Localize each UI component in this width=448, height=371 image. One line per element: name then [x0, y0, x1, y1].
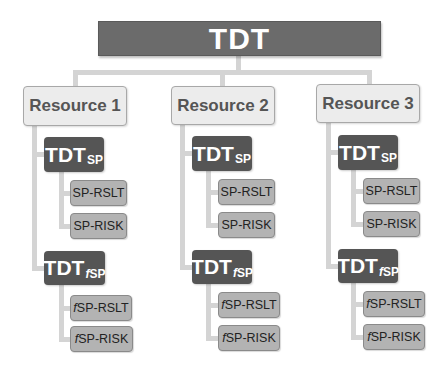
- resource-2-sp-rslt-node: SP-RSLT: [218, 179, 275, 205]
- resource-2-fsp-risk-node: fSP-RISK: [218, 325, 280, 351]
- leaf-label: SP-RSLT: [370, 297, 422, 311]
- tdt-subscript: SP: [87, 153, 103, 167]
- connector-res2-group1-branch: [180, 151, 192, 156]
- resource-1-tdt-fsp-node: TDTfSP: [44, 251, 105, 285]
- leaf-label: SP-RSLT: [77, 301, 129, 315]
- resource-3-tdt-sp-node: TDTSP: [338, 135, 398, 170]
- tdt-subscript-label: SP: [383, 265, 399, 279]
- tdt-subscript: SP: [235, 152, 251, 166]
- connector-res2-group1-leaf2: [206, 223, 218, 228]
- connector-res3-trunk: [326, 123, 331, 266]
- connector-res3-group2-leaf1: [351, 302, 363, 307]
- leaf-label: SP-RSLT: [221, 185, 273, 199]
- leaf-label: SP-RISK: [371, 330, 421, 344]
- connector-res3-group2-stem: [351, 283, 356, 337]
- leaf-label: SP-RISK: [78, 332, 128, 346]
- resource-2-sp-risk-node: SP-RISK: [218, 212, 275, 238]
- connector-res1-group1-leaf2: [59, 224, 70, 229]
- tdt-subscript-label: SP: [235, 152, 251, 166]
- resource-1-fsp-risk-node: fSP-RISK: [70, 326, 133, 352]
- resource-3-fsp-risk-node: fSP-RISK: [363, 324, 425, 350]
- tdt-subscript: fSP: [233, 266, 253, 280]
- tdt-subscript: SP: [381, 151, 397, 165]
- leaf-label: SP-RSLT: [225, 298, 277, 312]
- root-node: TDT: [98, 21, 381, 56]
- tdt-main-label: TDT: [44, 256, 85, 280]
- leaf-label: SP-RISK: [221, 218, 271, 232]
- connector-res1-group1-leaf1: [59, 191, 70, 196]
- connector-res2-group1-stem: [206, 171, 211, 225]
- resource-1-label: Resource 1: [29, 96, 121, 116]
- tdt-subscript-label: SP: [237, 266, 253, 280]
- connector-res2-stem: [220, 70, 225, 87]
- root-label: TDT: [209, 22, 270, 56]
- leaf-label: SP-RISK: [73, 219, 123, 233]
- leaf-label: SP-RSLT: [73, 186, 125, 200]
- resource-1-sp-risk-node: SP-RISK: [70, 213, 127, 239]
- connector-res2-trunk: [180, 125, 185, 267]
- connector-res2-group2-leaf1: [206, 303, 218, 308]
- resource-3-node: Resource 3: [316, 84, 420, 123]
- connector-res2-group1-leaf1: [206, 190, 218, 195]
- tdt-main-label: TDT: [193, 142, 234, 166]
- tdt-subscript-label: SP: [89, 267, 105, 281]
- resource-3-sp-risk-node: SP-RISK: [363, 211, 420, 237]
- connector-res2-group2-stem: [206, 284, 211, 338]
- connector-res1-group1-branch: [32, 152, 44, 157]
- connector-res2-group2-leaf2: [206, 336, 218, 341]
- resource-2-tdt-sp-node: TDTSP: [192, 136, 252, 171]
- resource-1-fsp-rslt-node: fSP-RSLT: [70, 295, 132, 321]
- connector-res1-stem: [73, 70, 78, 87]
- connector-res1-group2-branch: [32, 266, 44, 271]
- resource-1-sp-rslt-node: SP-RSLT: [70, 180, 127, 206]
- tdt-subscript-label: SP: [87, 153, 103, 167]
- resource-3-label: Resource 3: [322, 94, 414, 114]
- resource-3-fsp-rslt-node: fSP-RSLT: [363, 291, 425, 317]
- connector-res1-group2-leaf1: [59, 306, 70, 311]
- resource-1-node: Resource 1: [23, 86, 127, 126]
- connector-res3-group1-leaf2: [351, 222, 363, 227]
- connector-res1-trunk: [32, 126, 37, 268]
- connector-res1-group2-leaf2: [59, 337, 70, 342]
- connector-res3-group1-leaf1: [351, 189, 363, 194]
- leaf-label: SP-RSLT: [366, 184, 418, 198]
- resource-3-tdt-fsp-node: TDTfSP: [338, 249, 398, 283]
- tdt-main-label: TDT: [45, 143, 86, 167]
- tdt-main-label: TDT: [191, 255, 232, 279]
- connector-res1-group1-stem: [59, 172, 64, 226]
- tdt-subscript: fSP: [379, 265, 399, 279]
- leaf-label: SP-RISK: [366, 217, 416, 231]
- resource-3-sp-rslt-node: SP-RSLT: [363, 178, 420, 204]
- leaf-label: SP-RISK: [226, 331, 276, 345]
- tdt-main-label: TDT: [339, 141, 380, 165]
- resource-2-tdt-fsp-node: TDTfSP: [192, 250, 252, 284]
- tdt-main-label: TDT: [337, 254, 378, 278]
- resource-2-node: Resource 2: [171, 86, 275, 125]
- connector-res3-group1-stem: [351, 170, 356, 224]
- connector-res3-group1-branch: [326, 150, 338, 155]
- resource-2-label: Resource 2: [177, 96, 269, 116]
- connector-res3-group2-leaf2: [351, 335, 363, 340]
- tdt-subscript-label: SP: [381, 151, 397, 165]
- tdt-subscript: fSP: [85, 267, 105, 281]
- resource-1-tdt-sp-node: TDTSP: [44, 137, 104, 172]
- connector-res1-group2-stem: [59, 285, 64, 339]
- resource-2-fsp-rslt-node: fSP-RSLT: [218, 292, 280, 318]
